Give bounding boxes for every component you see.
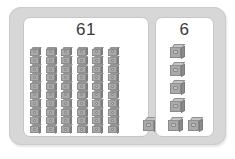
unit-cube-icon — [77, 90, 89, 99]
unit-cube-icon — [61, 47, 73, 56]
unit-cube-icon — [30, 90, 42, 99]
cube-stud — [33, 111, 36, 114]
unit-cube-icon — [92, 81, 104, 90]
cube-stud — [64, 128, 67, 131]
ten-rod[interactable] — [46, 47, 58, 133]
unit-cube-icon — [108, 47, 120, 56]
cube-stud — [64, 111, 67, 114]
cube-stud — [95, 111, 98, 114]
unit-cube-icon — [46, 64, 58, 73]
unit-cube-icon — [61, 99, 73, 108]
panel-left[interactable]: 61 — [23, 17, 149, 137]
ten-rod[interactable] — [92, 47, 104, 133]
ten-rod[interactable] — [30, 47, 42, 133]
unit-cube-icon — [108, 56, 120, 65]
cube-stud — [33, 119, 36, 122]
unit-cube-icon — [61, 81, 73, 90]
unit-cube-icon — [77, 81, 89, 90]
cube-stud — [33, 76, 36, 79]
panel-left-count: 61 — [24, 20, 148, 40]
unit-cube-icon — [61, 56, 73, 65]
cube-stud — [80, 85, 83, 88]
unit-cube-icon — [30, 56, 42, 65]
cube-stud — [80, 59, 83, 62]
cube-stud — [173, 86, 177, 90]
panel-right[interactable]: 6 — [155, 17, 214, 137]
unit-cube-icon — [108, 99, 120, 108]
cube-side-face — [86, 125, 88, 133]
unit-cube-icon — [92, 47, 104, 56]
cube-stud — [33, 59, 36, 62]
cube-stud — [80, 128, 83, 131]
cube-stud — [49, 85, 52, 88]
unit-cube-icon — [77, 47, 89, 56]
cube-side-face — [181, 63, 185, 76]
cube-stud — [49, 68, 52, 71]
cube-side-face — [181, 99, 185, 112]
unit-cube-icon — [170, 80, 185, 95]
unit-cube-icon — [30, 47, 42, 56]
unit-cube-icon — [46, 47, 58, 56]
unit-cube-icon — [108, 107, 120, 116]
unit-cube-icon — [46, 124, 58, 133]
unit-cube-icon — [188, 117, 203, 132]
ten-rod[interactable] — [108, 47, 120, 133]
cube-stud — [49, 93, 52, 96]
unit-cube-icon — [92, 64, 104, 73]
cube-stud — [173, 68, 177, 72]
cube-stud — [111, 85, 114, 88]
unit-cube-icon — [77, 56, 89, 65]
unit-cube-icon — [170, 98, 185, 113]
cube-side-face — [39, 125, 41, 133]
unit-cube-icon — [30, 107, 42, 116]
cube-stud — [64, 85, 67, 88]
unit-cube-icon — [61, 64, 73, 73]
unit-cube-icon — [46, 107, 58, 116]
cube-stud — [80, 111, 83, 114]
cube-side-face — [55, 125, 57, 133]
unit-cube-icon — [92, 90, 104, 99]
unit-cube-icon — [77, 99, 89, 108]
panel-right-count: 6 — [156, 20, 213, 40]
unit-cube-icon — [46, 90, 58, 99]
unit-cube-icon — [46, 81, 58, 90]
unit-cube-icon — [170, 62, 185, 77]
unit-cube-icon — [46, 56, 58, 65]
cube-stud — [111, 102, 114, 105]
cube-side-face — [179, 118, 183, 131]
cube-stud — [171, 123, 175, 127]
cube-stud — [80, 102, 83, 105]
cube-stud — [80, 68, 83, 71]
panel-right-loose-cubes — [156, 42, 213, 134]
cube-stud — [95, 85, 98, 88]
cube-stud — [111, 76, 114, 79]
unit-cube-icon — [92, 124, 104, 133]
activity-frame: 61 6 — [9, 7, 226, 145]
ten-rod[interactable] — [77, 47, 89, 133]
cube-side-face — [199, 118, 203, 131]
cube-stud — [111, 128, 114, 131]
unit-cube-icon — [77, 107, 89, 116]
unit-cube-icon — [92, 107, 104, 116]
panel-left-tens-rods — [30, 43, 142, 133]
unit-cube-icon — [61, 107, 73, 116]
ten-rod[interactable] — [61, 47, 73, 133]
cube-side-face — [117, 125, 119, 133]
cube-stud — [49, 102, 52, 105]
cube-side-face — [70, 125, 72, 133]
cube-stud — [146, 123, 150, 127]
cube-stud — [64, 59, 67, 62]
cube-stud — [33, 128, 36, 131]
cube-stud — [111, 59, 114, 62]
unit-cube-icon — [46, 99, 58, 108]
cube-stud — [191, 123, 195, 127]
cube-stud — [95, 68, 98, 71]
cube-stud — [173, 104, 177, 108]
cube-stud — [111, 111, 114, 114]
unit-cube-icon — [170, 44, 185, 59]
cube-stud — [111, 68, 114, 71]
cube-stud — [33, 85, 36, 88]
cube-side-face — [181, 45, 185, 58]
unit-cube-icon — [77, 64, 89, 73]
cube-stud — [49, 119, 52, 122]
